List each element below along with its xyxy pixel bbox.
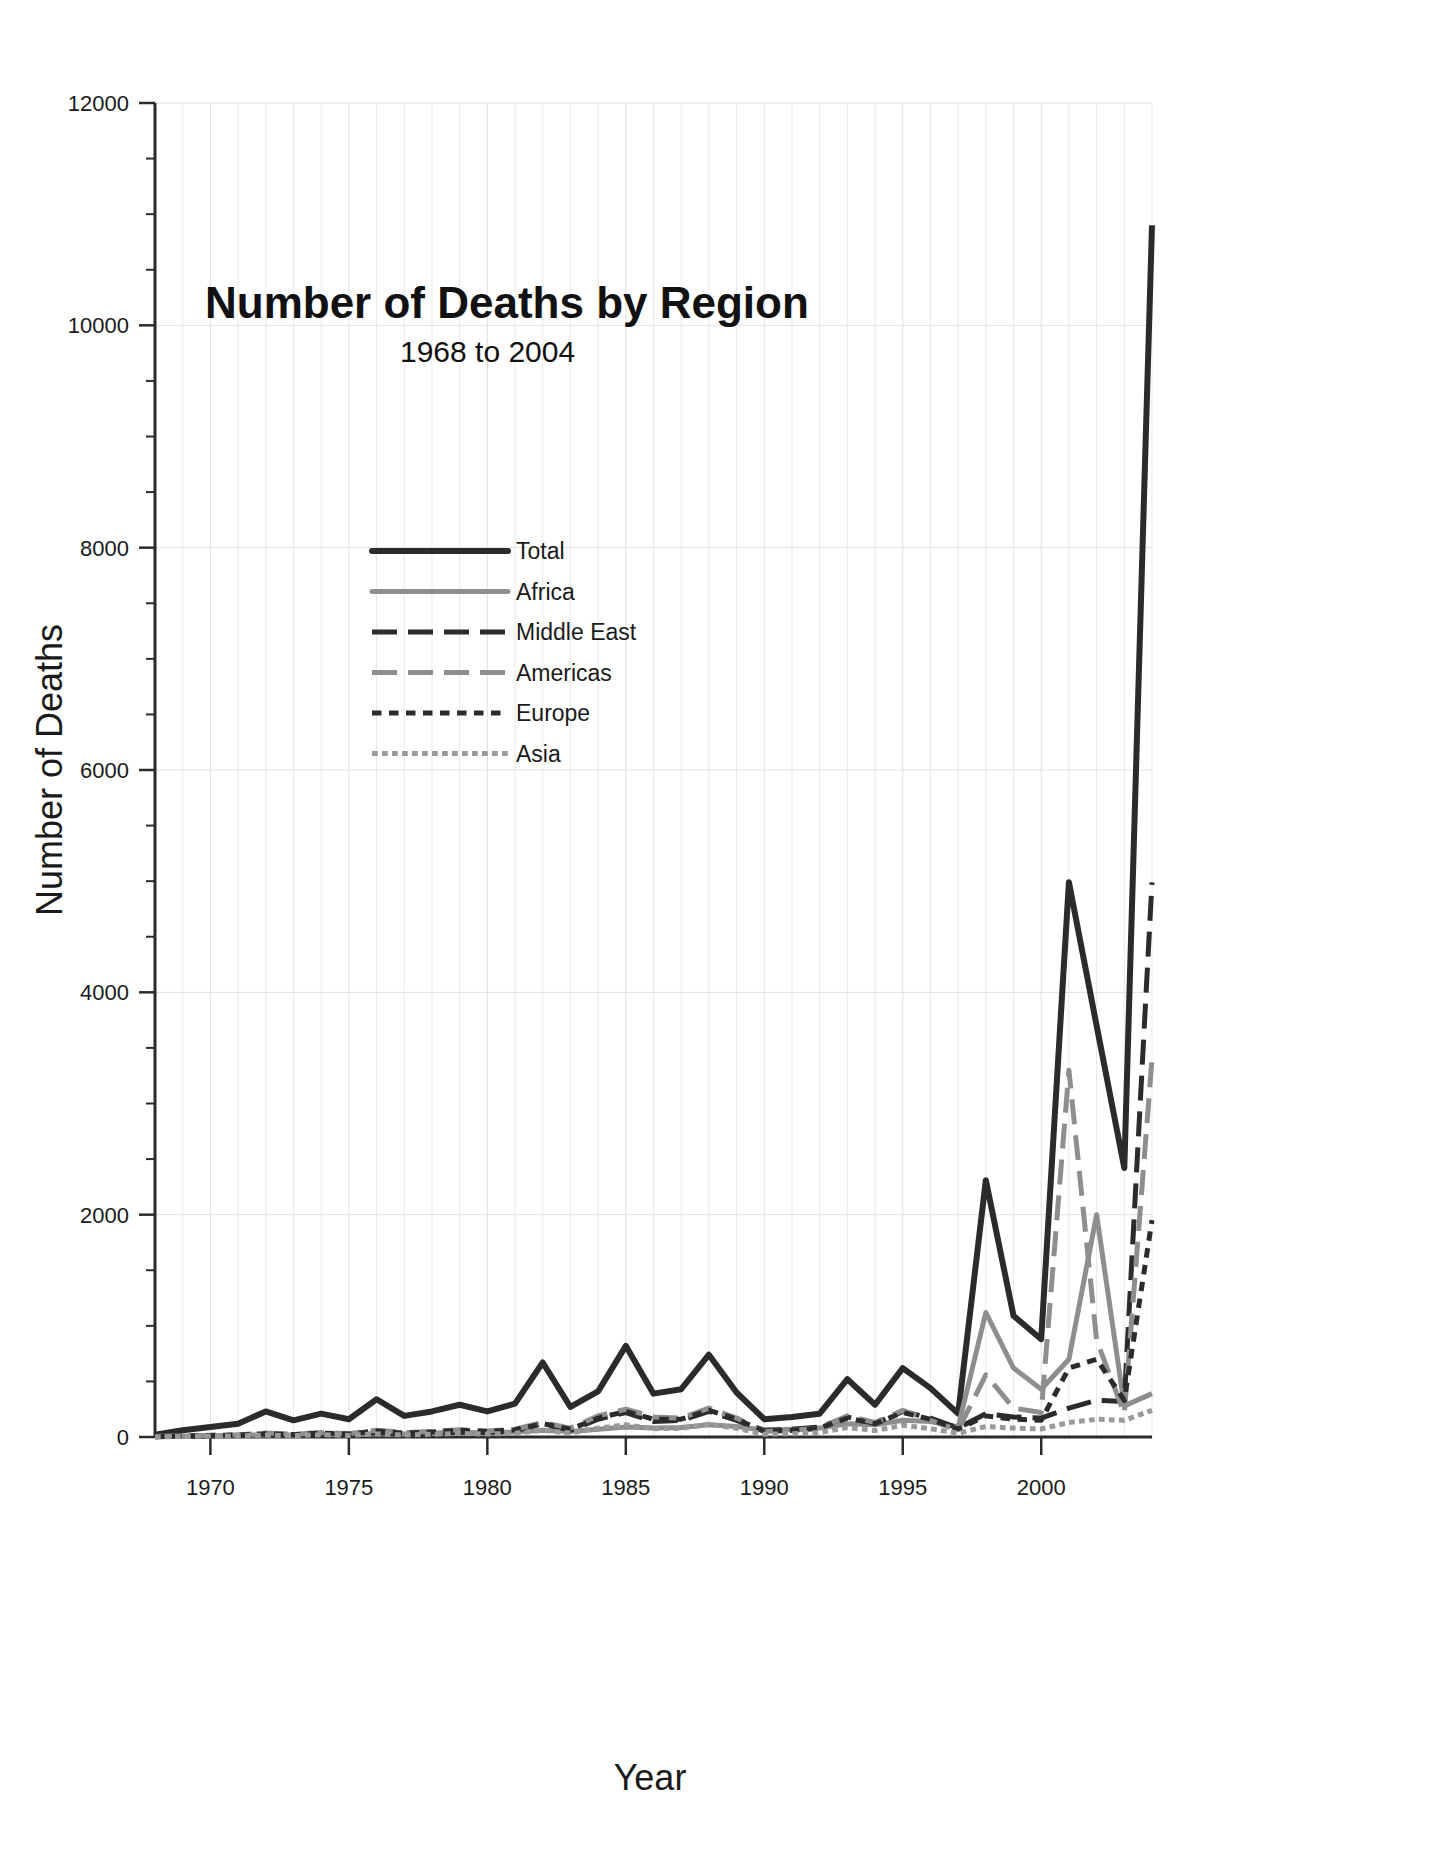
y-tick-label: 0	[117, 1425, 129, 1450]
x-axis-label: Year	[614, 1757, 687, 1798]
legend-label-total[interactable]: Total	[516, 538, 565, 564]
x-tick-label: 1995	[878, 1475, 927, 1500]
chart-title: Number of Deaths by Region	[205, 278, 809, 327]
legend-label-europe[interactable]: Europe	[516, 700, 590, 726]
line-chart: 020004000600080001000012000 197019751980…	[0, 0, 1452, 1867]
legend-label-africa[interactable]: Africa	[516, 579, 575, 605]
y-tick-label: 2000	[80, 1203, 129, 1228]
legend-label-americas[interactable]: Americas	[516, 660, 612, 686]
y-tick-label: 10000	[68, 313, 129, 338]
chart-canvas: 020004000600080001000012000 197019751980…	[0, 0, 1452, 1867]
x-tick-label: 1980	[463, 1475, 512, 1500]
y-tick-label: 6000	[80, 758, 129, 783]
legend-label-asia[interactable]: Asia	[516, 741, 561, 767]
y-tick-label: 4000	[80, 980, 129, 1005]
y-axis-label: Number of Deaths	[29, 624, 70, 916]
chart-subtitle: 1968 to 2004	[400, 335, 575, 368]
y-tick-label: 8000	[80, 536, 129, 561]
y-tick-label: 12000	[68, 91, 129, 116]
legend-label-middle_east[interactable]: Middle East	[516, 619, 637, 645]
x-tick-label: 1990	[740, 1475, 789, 1500]
x-tick-label: 1975	[324, 1475, 373, 1500]
x-tick-label: 1985	[601, 1475, 650, 1500]
x-tick-label: 1970	[186, 1475, 235, 1500]
x-tick-label: 2000	[1017, 1475, 1066, 1500]
